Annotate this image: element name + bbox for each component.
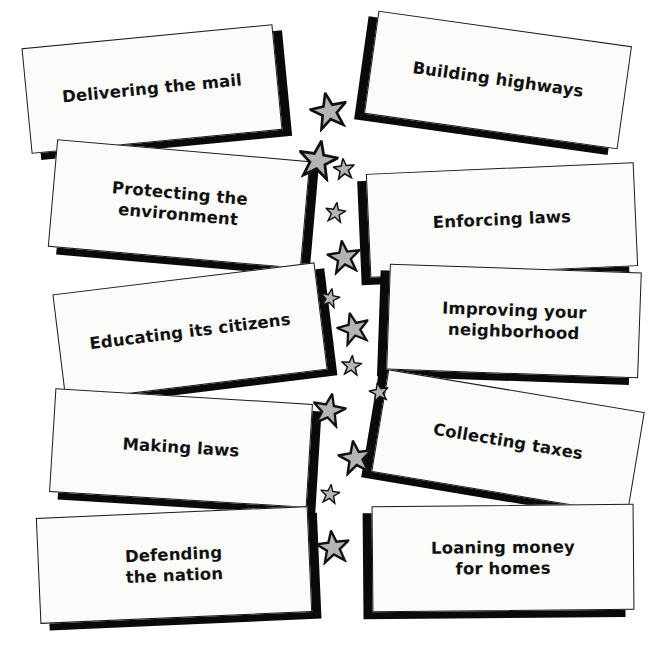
card-face[interactable]: Collecting taxes xyxy=(371,369,645,514)
card-label: Educating its citizens xyxy=(80,308,299,356)
star-icon xyxy=(325,238,363,276)
card-label: Making laws xyxy=(114,433,248,462)
card-label: Protecting the environment xyxy=(101,176,256,231)
card-protecting-the-environment[interactable]: Protecting the environment xyxy=(48,139,310,269)
card-label: Collecting taxes xyxy=(424,418,593,466)
card-label: Delivering the mail xyxy=(53,69,250,109)
card-enforcing-laws[interactable]: Enforcing laws xyxy=(366,162,638,278)
star-icon xyxy=(332,157,356,181)
card-improving-your-neighborhood[interactable]: Improving your neighborhood xyxy=(386,264,642,379)
star-icon xyxy=(335,437,375,477)
worksheet-page: Delivering the mailProtecting the enviro… xyxy=(0,0,664,665)
card-face[interactable]: Loaning money for homes xyxy=(372,504,635,612)
card-defending-the-nation[interactable]: Defending the nation xyxy=(36,506,312,624)
card-face[interactable]: Making laws xyxy=(49,388,313,508)
star-icon xyxy=(340,354,363,377)
card-loaning-money-for-homes[interactable]: Loaning money for homes xyxy=(372,504,635,612)
card-collecting-taxes[interactable]: Collecting taxes xyxy=(371,369,645,514)
star-icon xyxy=(314,528,352,566)
card-label: Loaning money for homes xyxy=(423,536,583,580)
card-face[interactable]: Building highways xyxy=(364,11,632,150)
card-delivering-the-mail[interactable]: Delivering the mail xyxy=(22,24,283,154)
card-face[interactable]: Protecting the environment xyxy=(48,139,310,269)
card-building-highways[interactable]: Building highways xyxy=(364,11,632,150)
card-educating-its-citizens[interactable]: Educating its citizens xyxy=(52,262,327,401)
card-face[interactable]: Defending the nation xyxy=(36,506,312,624)
card-face[interactable]: Enforcing laws xyxy=(366,162,638,278)
star-icon xyxy=(306,88,351,133)
star-icon xyxy=(367,380,390,403)
star-icon xyxy=(309,390,349,430)
star-icon xyxy=(318,286,342,310)
card-label: Enforcing laws xyxy=(424,206,579,234)
star-icon xyxy=(333,308,373,348)
star-icon xyxy=(319,483,341,505)
card-face[interactable]: Improving your neighborhood xyxy=(386,264,642,379)
card-label: Building highways xyxy=(403,56,592,103)
star-icon xyxy=(324,201,348,225)
card-label: Defending the nation xyxy=(116,541,231,588)
card-label: Improving your neighborhood xyxy=(433,297,595,345)
card-making-laws[interactable]: Making laws xyxy=(49,388,313,508)
